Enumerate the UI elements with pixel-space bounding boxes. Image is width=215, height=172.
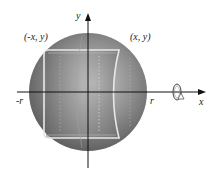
y-axis-arrow-icon (85, 13, 91, 21)
cylinder-body (46, 50, 119, 138)
left-point-label: (-x, y) (24, 32, 48, 42)
sphere-cylinder-diagram: y x -r r (-x, y) (x, y) (0, 0, 215, 172)
y-axis-label: y (76, 11, 80, 21)
pos-r-label: r (150, 96, 154, 106)
x-axis-label: x (199, 97, 203, 107)
diagram-canvas (0, 0, 215, 172)
neg-r-label: -r (16, 96, 23, 106)
right-point-label: (x, y) (130, 32, 151, 42)
x-axis-arrow-icon (198, 89, 206, 95)
